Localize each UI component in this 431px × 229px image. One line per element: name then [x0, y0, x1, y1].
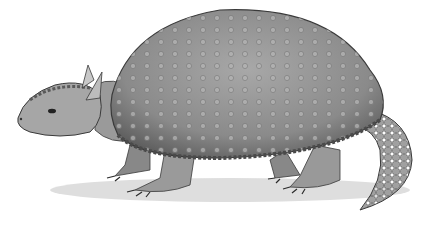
glyptodont-illustration [0, 0, 431, 229]
nostril [20, 118, 22, 120]
head [18, 83, 102, 136]
back-leg-near [290, 145, 340, 188]
shell-texture [111, 10, 383, 158]
ground-shadow [50, 178, 410, 202]
ear-far [82, 65, 94, 88]
eye [48, 109, 56, 114]
